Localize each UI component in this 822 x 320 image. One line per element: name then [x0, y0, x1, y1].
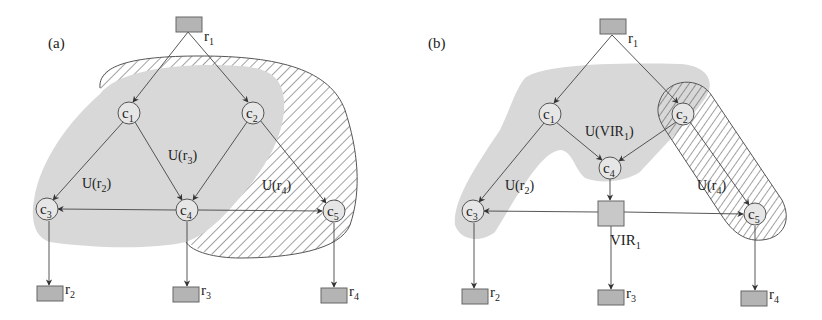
resource-label-r2: r2 [65, 281, 75, 300]
resource-box-r4 [321, 288, 347, 303]
panel-b-label: (b) [428, 35, 446, 52]
figure: (a) r1r2r3r4c1c2c3c4c5U(r2)U(r3)U(r4) (b… [0, 0, 822, 320]
resource-label-r4: r4 [769, 286, 779, 305]
resource-box-r2 [462, 289, 488, 304]
resource-box-r2 [37, 286, 63, 301]
resource-label-r1: r1 [204, 28, 214, 47]
vir-label: VIR1 [610, 232, 641, 251]
resource-label-r1: r1 [628, 30, 638, 49]
resource-box-r3 [598, 290, 624, 305]
resource-label-r3: r3 [201, 282, 211, 301]
resource-box-r4 [741, 291, 767, 306]
panel-a-label: (a) [48, 35, 65, 52]
resource-label-r2: r2 [490, 284, 500, 303]
resource-box-r1 [176, 17, 202, 32]
resource-box-r1 [600, 19, 626, 34]
resource-label-r3: r3 [626, 285, 636, 304]
resource-label-r4: r4 [349, 283, 359, 302]
vir-box [598, 201, 624, 226]
resource-box-r3 [173, 287, 199, 302]
